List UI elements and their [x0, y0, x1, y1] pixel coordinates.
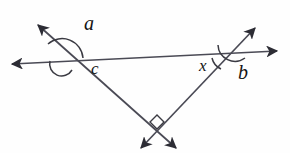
angle-arc-a: [48, 39, 83, 58]
geometry-figure: a c x b: [0, 0, 290, 153]
angle-label-c: c: [91, 60, 99, 77]
angle-label-b: b: [238, 62, 248, 82]
angle-label-a: a: [84, 13, 94, 33]
right-diagonal-line: [141, 28, 255, 148]
left-diagonal-line: [38, 25, 176, 148]
angle-label-x: x: [199, 57, 207, 74]
angle-arc-c: [50, 61, 72, 76]
